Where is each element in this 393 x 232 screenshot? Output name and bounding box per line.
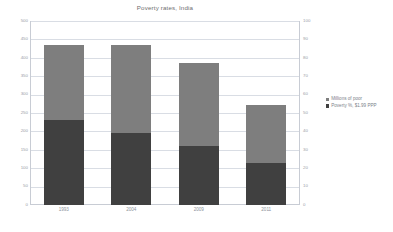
left-axis-tick: 300 [6, 92, 28, 96]
right-axis-tick: 80 [303, 56, 325, 60]
bar-segment-poverty-percent[interactable] [111, 133, 151, 205]
right-axis-tick: 10 [303, 184, 325, 188]
chart-title: Poverty rates, India [0, 4, 330, 11]
right-axis-tick: 70 [303, 74, 325, 78]
x-axis-label-2009: 2009 [165, 208, 233, 213]
right-axis-tick: 100 [303, 19, 325, 23]
right-axis-tick: 50 [303, 111, 325, 115]
right-axis-tick: 20 [303, 166, 325, 170]
bar-segment-millions-of-poor[interactable] [44, 45, 84, 120]
left-axis-tick: 400 [6, 56, 28, 60]
bar-segment-millions-of-poor[interactable] [111, 45, 151, 133]
bar-segment-poverty-percent[interactable] [246, 163, 286, 205]
chart-legend: Millions of poorPoverty %, $1.99 PPP [326, 97, 392, 111]
bar-segment-millions-of-poor[interactable] [179, 63, 219, 146]
x-axis-label-1993: 1993 [30, 208, 98, 213]
left-axis-line [30, 21, 31, 205]
left-axis-tick: 500 [6, 19, 28, 23]
legend-item[interactable]: Millions of poor [326, 97, 392, 102]
plot-area [30, 21, 300, 205]
x-axis-label-2004: 2004 [98, 208, 166, 213]
right-axis-line [299, 21, 300, 205]
right-axis-tick: 60 [303, 92, 325, 96]
bar-group[interactable] [44, 45, 84, 205]
legend-label: Poverty %, $1.99 PPP [331, 104, 376, 109]
chart-container: Poverty rates, India 5004504003503002502… [0, 0, 393, 232]
left-axis-tick: 50 [6, 184, 28, 188]
left-axis-tick-labels: 500450400350300250200150100500 [4, 21, 28, 205]
bar-group[interactable] [111, 45, 151, 205]
x-axis-label-2011: 2011 [233, 208, 301, 213]
left-axis-tick: 250 [6, 111, 28, 115]
grid-line [30, 21, 300, 22]
legend-item[interactable]: Poverty %, $1.99 PPP [326, 104, 392, 109]
grid-line [30, 39, 300, 40]
bar-segment-poverty-percent[interactable] [179, 146, 219, 205]
x-axis-category-labels: 1993200420092011 [30, 208, 300, 220]
legend-swatch-icon [326, 98, 329, 101]
right-axis-tick: 90 [303, 37, 325, 41]
right-axis-tick: 40 [303, 129, 325, 133]
left-axis-tick: 0 [6, 203, 28, 207]
bar-segment-poverty-percent[interactable] [44, 120, 84, 205]
left-axis-tick: 150 [6, 148, 28, 152]
legend-label: Millions of poor [331, 97, 362, 102]
left-axis-tick: 200 [6, 129, 28, 133]
left-axis-tick: 450 [6, 37, 28, 41]
right-axis-tick-labels: 1009080706050403020100 [303, 21, 327, 205]
bar-group[interactable] [246, 105, 286, 205]
legend-swatch-icon [326, 104, 329, 107]
left-axis-tick: 350 [6, 74, 28, 78]
bar-group[interactable] [179, 63, 219, 205]
right-axis-tick: 0 [303, 203, 325, 207]
right-axis-tick: 30 [303, 148, 325, 152]
bar-segment-millions-of-poor[interactable] [246, 105, 286, 164]
left-axis-tick: 100 [6, 166, 28, 170]
